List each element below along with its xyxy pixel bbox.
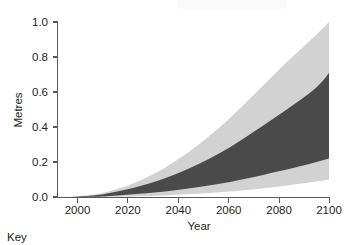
x-tick-label-2060: 2060 (216, 204, 242, 216)
x-tick-label-2100: 2100 (316, 204, 342, 216)
scan-artifact (178, 0, 286, 9)
x-axis-title: Year (187, 220, 210, 232)
x-tick-label-2020: 2020 (115, 204, 141, 216)
key-heading: Key (7, 231, 27, 243)
y-axis-title: Metres (12, 92, 24, 127)
sea-level-projection-figure: 1.0 0.8 0.6 0.4 0.2 0.0 2000 2020 2040 2… (0, 0, 351, 245)
y-tick-label-0.8: 0.8 (32, 51, 48, 63)
x-tick-label-2000: 2000 (65, 204, 91, 216)
x-tick-label-2080: 2080 (266, 204, 292, 216)
y-tick-label-0.2: 0.2 (32, 156, 48, 168)
y-tick-label-0.6: 0.6 (32, 86, 48, 98)
y-tick-label-0.4: 0.4 (32, 121, 49, 133)
y-tick-label-1.0: 1.0 (32, 16, 48, 28)
chart-canvas: 1.0 0.8 0.6 0.4 0.2 0.0 2000 2020 2040 2… (0, 0, 351, 245)
x-tick-label-2040: 2040 (166, 204, 192, 216)
y-tick-label-0.0: 0.0 (32, 191, 48, 203)
